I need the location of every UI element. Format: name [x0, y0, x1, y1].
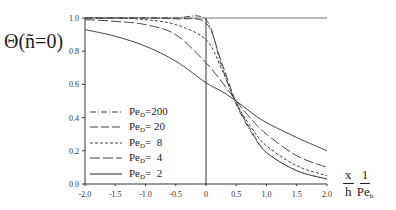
x-tick-label: -0.5: [169, 190, 182, 199]
legend-item-pe-4: PeD= 4: [88, 151, 168, 167]
x-tick-label: 0: [204, 190, 208, 199]
legend-item-pe-20: PeD= 20: [88, 120, 168, 136]
legend-line-swatch: [88, 108, 124, 116]
y-tick-label: 0.8: [69, 47, 79, 56]
one-over-pe: 1 Peh: [357, 167, 374, 204]
x-tick-label: 0.5: [231, 190, 241, 199]
legend-item-pe-8: PeD= 8: [88, 135, 168, 151]
y-tick-label: 1.0: [69, 14, 79, 23]
x-tick-label: 1.5: [292, 190, 302, 199]
legend-line-swatch: [88, 123, 124, 131]
legend-label: PeD=200: [129, 105, 168, 119]
y-axis-label: Θ(ñ=0): [4, 30, 63, 53]
legend-line-swatch: [88, 139, 124, 147]
legend-line-swatch: [88, 170, 124, 178]
legend-line-swatch: [88, 154, 124, 162]
x-over-h: x h: [343, 167, 354, 200]
legend-label: PeD= 20: [129, 120, 165, 134]
legend-item-pe-2: PeD= 2: [88, 166, 168, 182]
legend: PeD=200PeD= 20PeD= 8PeD= 4PeD= 2: [88, 104, 168, 182]
legend-label: PeD= 4: [129, 151, 162, 165]
y-tick-label: 0.2: [69, 147, 79, 156]
legend-item-pe-200: PeD=200: [88, 104, 168, 120]
x-axis-label: x h 1 Peh: [343, 167, 373, 204]
x-tick-label: -1.0: [139, 190, 152, 199]
legend-label: PeD= 8: [129, 136, 162, 150]
y-tick-label: 0.4: [69, 114, 79, 123]
y-tick-label: 0.6: [69, 80, 79, 89]
legend-label: PeD= 2: [129, 167, 162, 181]
y-tick-label: 0.0: [69, 180, 79, 189]
x-tick-label: -1.5: [109, 190, 122, 199]
x-tick-label: -2.0: [79, 190, 92, 199]
x-tick-label: 2.0: [322, 190, 332, 199]
x-tick-label: 1.0: [262, 190, 272, 199]
